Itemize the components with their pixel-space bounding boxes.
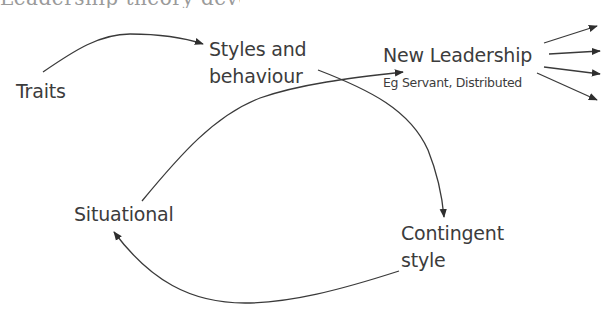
node-situational: Situational <box>74 205 174 224</box>
node-traits: Traits <box>16 82 66 101</box>
node-new-leadership-examples: Eg Servant, Distributed <box>383 77 522 90</box>
node-styles-line1: Styles and <box>209 36 306 63</box>
fan-arrow-4 <box>537 73 597 100</box>
node-contingent-style: Contingent style <box>401 220 504 274</box>
arrow-contingent-to-situational <box>114 232 399 303</box>
arrow-traits-to-styles <box>43 34 203 72</box>
arrow-situational-to-new-leadership <box>142 72 403 201</box>
node-styles-line2: behaviour <box>209 63 306 90</box>
fan-arrow-1 <box>544 26 597 43</box>
node-contingent-line1: Contingent <box>401 220 504 247</box>
fan-arrow-2 <box>549 51 600 54</box>
fan-arrow-3 <box>544 67 600 74</box>
arrow-styles-to-contingent <box>318 70 444 217</box>
node-contingent-line2: style <box>401 247 504 274</box>
node-new-leadership: New Leadership <box>383 46 532 65</box>
node-styles-and-behaviour: Styles and behaviour <box>209 36 306 90</box>
